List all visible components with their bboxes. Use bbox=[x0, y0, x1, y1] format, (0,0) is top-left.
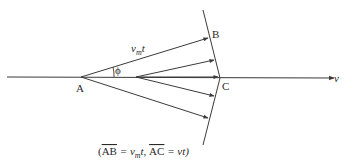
label-velocity: v bbox=[334, 72, 339, 84]
label-B: B bbox=[212, 28, 219, 40]
label-phi: ϕ bbox=[115, 64, 121, 76]
label-C: C bbox=[222, 80, 229, 92]
label-vm-t: vmt bbox=[131, 42, 146, 57]
ray-A-lower bbox=[81, 77, 208, 118]
caption-ab: AB bbox=[102, 145, 117, 157]
label-A: A bbox=[76, 82, 84, 94]
wavefront-diagram: A B C ϕ v vmt (AB = vmt, AC = vt) bbox=[0, 0, 362, 163]
angle-arc bbox=[113, 67, 114, 77]
ray-mid-lower bbox=[136, 77, 214, 96]
caption-ac: AC bbox=[149, 145, 164, 157]
caption: (AB = vmt, AC = vt) bbox=[98, 145, 189, 160]
ray-mid-upper bbox=[136, 60, 214, 77]
